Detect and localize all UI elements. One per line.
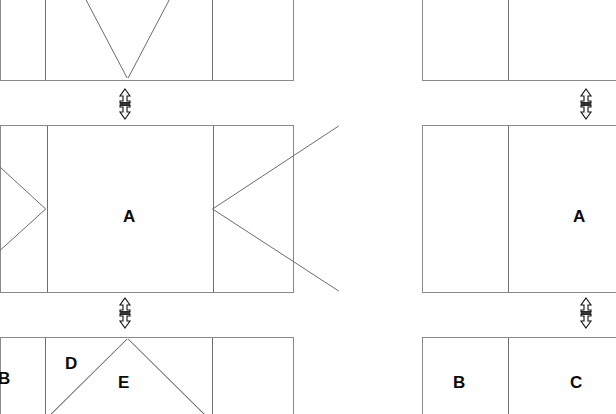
vertical-resize-cursor-icon	[578, 297, 594, 329]
row-divider[interactable]	[212, 338, 213, 414]
vertical-resize-cursor[interactable]	[578, 297, 594, 329]
vertical-resize-cursor-icon	[117, 88, 133, 120]
diagonal-guide-lines	[1, 126, 293, 292]
panel-row-top[interactable]	[0, 0, 294, 81]
panel-row-bottom[interactable]: B C	[422, 337, 616, 414]
row-divider[interactable]	[45, 338, 46, 414]
vertical-resize-cursor[interactable]	[578, 88, 594, 120]
vertical-resize-cursor[interactable]	[117, 88, 133, 120]
panel-label-b: B	[453, 374, 465, 391]
diagram-canvas: A B D E	[0, 0, 616, 414]
row-divider[interactable]	[212, 0, 213, 80]
row-divider[interactable]	[508, 0, 509, 80]
vertical-resize-cursor[interactable]	[117, 297, 133, 329]
panel-label-d: D	[65, 355, 77, 372]
variant-plain: A B C	[400, 0, 616, 414]
panel-label-c: C	[570, 374, 582, 391]
row-divider[interactable]	[508, 338, 509, 414]
row-divider[interactable]	[508, 126, 509, 292]
row-divider[interactable]	[213, 126, 214, 292]
panel-row-top[interactable]	[422, 0, 616, 81]
row-divider[interactable]	[45, 0, 46, 80]
panel-row-middle[interactable]: A	[0, 125, 294, 293]
panel-row-bottom[interactable]: B D E	[0, 337, 294, 414]
panel-label-a: A	[573, 208, 585, 225]
vertical-resize-cursor-icon	[578, 88, 594, 120]
panel-label-b: B	[0, 370, 10, 387]
panel-label-e: E	[118, 374, 129, 391]
variant-with-guides: A B D E	[0, 0, 308, 414]
panel-label-a: A	[123, 208, 135, 225]
vertical-resize-cursor-icon	[117, 297, 133, 329]
panel-row-middle[interactable]: A	[422, 125, 616, 293]
row-divider[interactable]	[47, 126, 48, 292]
